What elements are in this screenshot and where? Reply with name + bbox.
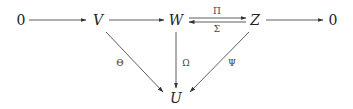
node-v: V — [93, 12, 105, 28]
label-pi: Π — [213, 6, 221, 16]
label-theta: Θ — [116, 58, 123, 68]
node-z: Z — [249, 12, 260, 28]
node-w: W — [169, 12, 185, 28]
label-omega: Ω — [182, 58, 189, 68]
label-sigma: Σ — [214, 24, 220, 34]
arrow-v-to-u — [106, 32, 163, 92]
node-u: U — [170, 90, 183, 106]
diagram-canvas: 0 V W Z 0 U Π Σ Θ Ω Ψ — [0, 0, 353, 109]
arrow-z-to-u — [190, 32, 249, 92]
label-psi: Ψ — [228, 58, 236, 68]
node-zero-left: 0 — [17, 12, 26, 28]
commutative-diagram: 0 V W Z 0 U Π Σ Θ Ω Ψ — [0, 0, 353, 109]
node-zero-right: 0 — [329, 12, 338, 28]
